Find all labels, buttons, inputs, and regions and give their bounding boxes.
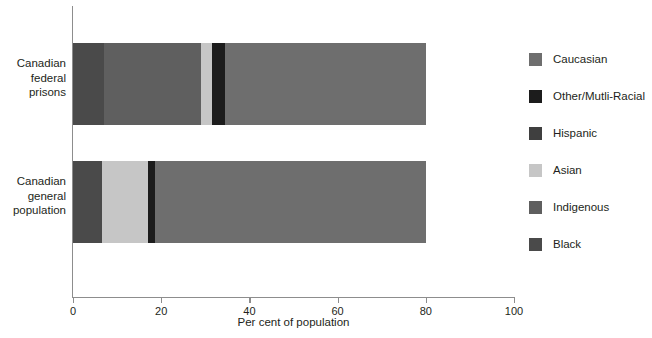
stacked-bar-chart: Canadian federal prisons Canadian genera…: [0, 0, 652, 338]
x-tick: [426, 297, 427, 303]
bar-segment-asian: [201, 43, 212, 125]
x-tick: [73, 297, 74, 303]
bar-segment-indigenous: [104, 43, 201, 125]
bar-segment-caucasian: [225, 43, 426, 125]
legend-label: Hispanic: [553, 126, 597, 141]
legend-swatch-icon: [529, 164, 542, 177]
x-axis-title: Per cent of population: [73, 316, 514, 328]
legend-swatch-icon: [529, 127, 542, 140]
x-tick: [161, 297, 162, 303]
category-label-line: prisons: [0, 85, 66, 100]
bar-segment-other-mutli-racial: [212, 43, 225, 125]
category-label-line: general: [0, 189, 66, 204]
legend-label: Black: [553, 237, 581, 252]
legend-label: Indigenous: [553, 200, 609, 215]
bar-segment-black: [73, 161, 102, 243]
bar-segment-asian: [102, 161, 148, 243]
legend-label: Asian: [553, 163, 582, 178]
bar-segment-caucasian: [155, 161, 426, 243]
legend-label: Other/Mutli-Racial: [553, 89, 645, 104]
legend-swatch-icon: [529, 53, 542, 66]
legend-swatch-icon: [529, 90, 542, 103]
bar-segment-other-mutli-racial: [148, 161, 155, 243]
x-tick: [338, 297, 339, 303]
category-label-prisons: Canadian federal prisons: [0, 56, 66, 100]
category-label-general-population: Canadian general population: [0, 174, 66, 218]
x-tick: [514, 297, 515, 303]
bar-segment-black: [73, 43, 104, 125]
legend-swatch-icon: [529, 201, 542, 214]
category-label-line: population: [0, 203, 66, 218]
legend-label: Caucasian: [553, 52, 607, 67]
category-label-line: Canadian: [0, 56, 66, 71]
x-axis-line: [72, 297, 515, 298]
category-label-line: Canadian: [0, 174, 66, 189]
x-tick: [249, 297, 250, 303]
category-label-line: federal: [0, 71, 66, 86]
legend-swatch-icon: [529, 238, 542, 251]
